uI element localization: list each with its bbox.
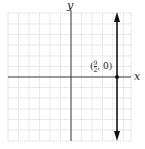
arrow-up-icon — [114, 12, 120, 22]
point-label: (92, 0) — [90, 60, 112, 73]
x-axis-label: x — [134, 70, 140, 83]
point-label-rest: , 0) — [97, 61, 112, 71]
coordinate-plane — [0, 0, 145, 149]
point-9-2-0 — [115, 75, 119, 79]
y-axis-label: y — [67, 0, 73, 12]
arrow-down-icon — [114, 131, 120, 141]
